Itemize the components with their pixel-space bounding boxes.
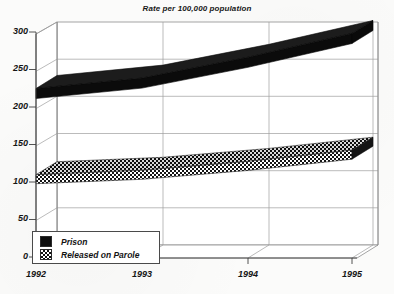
y-tick-label-50: 50: [0, 213, 28, 223]
legend-item-parole: Released on Parole: [40, 248, 139, 261]
x-tick-label-1992: 1992: [16, 269, 56, 279]
y-tick-label-0: 0: [0, 251, 28, 261]
legend-item-prison: Prison: [40, 235, 87, 248]
checkered-square-icon: [40, 249, 52, 260]
legend-label-parole: Released on Parole: [61, 250, 139, 260]
legend-label-prison: Prison: [61, 237, 87, 247]
x-tick-label-1993: 1993: [122, 269, 162, 279]
y-tick-label-250: 250: [0, 63, 28, 73]
solid-square-icon: [40, 236, 52, 247]
chart-legend: Prison Released on Parole: [32, 231, 160, 264]
x-tick-label-1994: 1994: [228, 269, 268, 279]
y-tick-label-300: 300: [0, 26, 28, 36]
y-axis: [29, 32, 36, 258]
x-tick-label-1995: 1995: [332, 269, 372, 279]
y-tick-label-150: 150: [0, 138, 28, 148]
y-tick-label-200: 200: [0, 101, 28, 111]
y-tick-label-100: 100: [0, 176, 28, 186]
chart-container: Rate per 100,000 population: [0, 0, 394, 294]
